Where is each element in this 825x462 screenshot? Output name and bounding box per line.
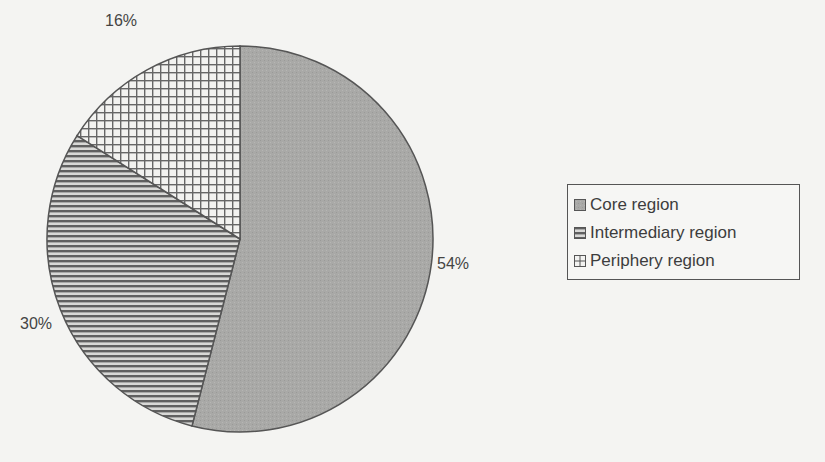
legend-item-intermediary: Intermediary region: [574, 219, 799, 247]
grid-swatch-icon: [574, 255, 586, 267]
legend-item-core: Core region: [574, 191, 799, 219]
slice-label-core: 54%: [437, 255, 469, 273]
legend-label: Intermediary region: [590, 223, 736, 243]
chart-legend: Core region Intermediary region Peripher…: [567, 184, 800, 280]
slice-label-intermediary: 30%: [20, 315, 52, 333]
slice-label-periphery: 16%: [105, 12, 137, 30]
pie-slices: [47, 46, 433, 432]
hlines-swatch-icon: [574, 227, 586, 239]
legend-label: Core region: [590, 195, 679, 215]
legend-label: Periphery region: [590, 251, 715, 271]
legend-item-periphery: Periphery region: [574, 247, 799, 275]
stipple-swatch-icon: [574, 199, 586, 211]
